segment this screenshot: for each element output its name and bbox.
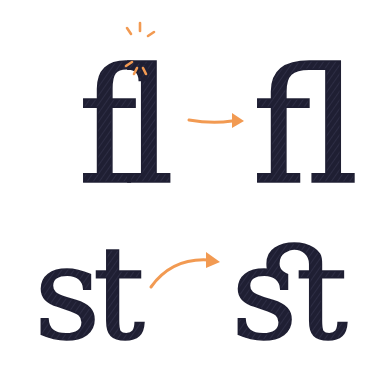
- glyph-fl-separate: fl: [78, 33, 170, 220]
- row-fl: fl ﬂ: [78, 23, 359, 220]
- ligature-illustration: fl ﬂ st ﬆ: [0, 0, 378, 386]
- glyph-fl-ligature: ﬂ: [252, 33, 359, 220]
- arrow-right-icon: [189, 113, 244, 128]
- row-st: st ﬆ: [34, 217, 353, 369]
- arrow-curved-icon: [151, 252, 220, 287]
- glyph-st-ligature: ﬆ: [232, 217, 353, 369]
- glyph-st-separate: st: [34, 217, 145, 369]
